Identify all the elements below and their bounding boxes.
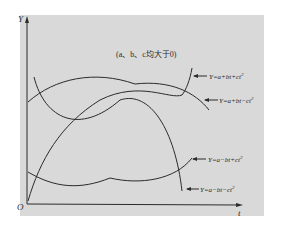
diagram: Y t O (a、b、c均大于0) Y=a+bt+ct2 Y=a+bt−ct2 …	[0, 0, 281, 233]
svg-text:Y=a−bt+ct2: Y=a−bt+ct2	[208, 155, 243, 164]
condition-note: (a、b、c均大于0)	[116, 49, 177, 59]
origin-label: O	[17, 202, 24, 212]
svg-text:Y=a+bt+ct2: Y=a+bt+ct2	[209, 72, 244, 81]
svg-text:Y=a−bt−ct2: Y=a−bt−ct2	[200, 185, 235, 194]
svg-text:Y=a+bt−ct2: Y=a+bt−ct2	[219, 96, 254, 105]
